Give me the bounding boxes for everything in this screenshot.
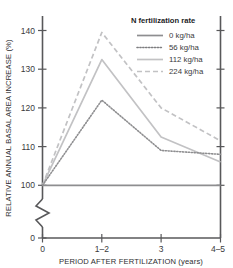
- legend-item-2[interactable]: 112 kg/ha: [137, 55, 203, 64]
- legend: N fertilization rate 0 kg/ha 56 kg/ha 11…: [131, 16, 204, 76]
- x-tick-label-0: 0: [40, 244, 45, 254]
- legend-title: N fertilization rate: [131, 16, 195, 25]
- basal-area-line-chart: 140 130 120 110 100 0 0 1–2 3 4–5 PERIOD…: [0, 0, 233, 268]
- legend-item-3[interactable]: 224 kg/ha: [137, 67, 204, 76]
- x-axis-title: PERIOD AFTER FERTILIZATION (years): [59, 257, 203, 266]
- legend-label-224-kg: 224 kg/ha: [169, 67, 204, 76]
- x-tick-label-3: 3: [159, 244, 164, 254]
- x-axis-tick-labels: 0 1–2 3 4–5: [40, 244, 225, 254]
- series-line-56-kg-ha: [43, 100, 221, 185]
- y-tick-label-130: 130: [21, 64, 35, 74]
- y-tick-label-120: 120: [21, 103, 35, 113]
- legend-item-0[interactable]: 0 kg/ha: [137, 31, 195, 40]
- legend-item-1[interactable]: 56 kg/ha: [137, 43, 200, 52]
- x-tick-label-4-5: 4–5: [211, 244, 225, 254]
- y-axis-title: RELATIVE ANNUAL BASAL AREA INCREASE (%): [4, 39, 13, 217]
- chart-figure: 140 130 120 110 100 0 0 1–2 3 4–5 PERIOD…: [0, 0, 233, 268]
- legend-label-112-kg: 112 kg/ha: [169, 55, 203, 64]
- legend-label-0-kg: 0 kg/ha: [169, 31, 195, 40]
- series-line-112-kg-ha: [43, 60, 221, 186]
- x-tick-label-1-2: 1–2: [95, 244, 109, 254]
- y-axis-tick-labels: 140 130 120 110 100 0: [21, 26, 35, 244]
- y-tick-label-0: 0: [30, 233, 35, 243]
- legend-label-56-kg: 56 kg/ha: [169, 43, 200, 52]
- y-axis-break-zigzag: [36, 199, 49, 227]
- y-tick-label-110: 110: [21, 142, 35, 152]
- y-tick-label-140: 140: [21, 26, 35, 36]
- y-tick-label-100: 100: [21, 180, 35, 190]
